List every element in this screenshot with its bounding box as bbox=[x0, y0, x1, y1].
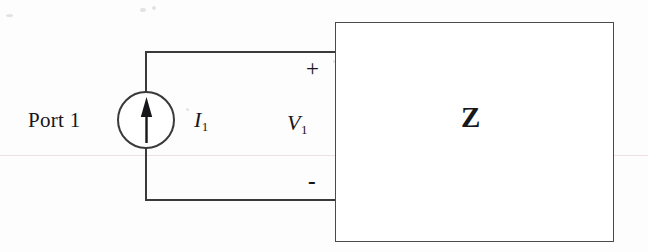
impedance-label: Z bbox=[461, 103, 480, 132]
bottom-wire bbox=[145, 199, 336, 201]
scan-speck bbox=[186, 108, 189, 111]
scan-speck bbox=[6, 14, 13, 17]
voltage-subscript: 1 bbox=[301, 122, 308, 137]
voltage-symbol: V bbox=[287, 110, 300, 135]
current-label: I1 bbox=[194, 109, 208, 133]
polarity-minus-label: - bbox=[308, 170, 316, 193]
scan-speck bbox=[152, 6, 156, 10]
voltage-label: V1 bbox=[287, 112, 307, 136]
current-arrow-up-icon bbox=[138, 96, 156, 144]
polarity-plus-label: + bbox=[306, 57, 319, 80]
top-wire bbox=[145, 51, 336, 53]
left-wire-lower bbox=[145, 148, 147, 201]
circuit-diagram: Port 1 I1 V1 + - Z bbox=[0, 0, 648, 252]
scan-speck bbox=[140, 8, 146, 12]
current-symbol: I bbox=[194, 107, 201, 132]
current-subscript: 1 bbox=[202, 119, 209, 134]
port-label: Port 1 bbox=[28, 110, 81, 131]
left-wire-upper bbox=[145, 51, 147, 92]
